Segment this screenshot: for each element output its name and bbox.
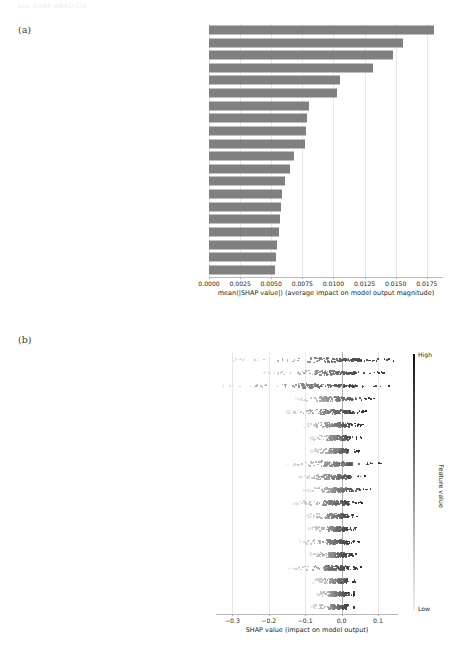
x-axis-line	[209, 277, 443, 278]
colorbar-high-label: High	[418, 351, 432, 358]
x-tick-label: 0.0100	[323, 280, 344, 287]
x-tick-label: 0.0000	[198, 280, 219, 287]
panel-a-bar-chart: Pons white matterLeft parahippocampal gy…	[0, 0, 451, 325]
x-tick-label: 0.0075	[292, 280, 313, 287]
x-tick-label: 0.0050	[261, 280, 282, 287]
colorbar-gradient	[413, 354, 415, 610]
feature-value-colorbar: HighLowFeature value	[0, 330, 451, 665]
x-tick-label: 0.0125	[354, 280, 375, 287]
x-axis-title: mean(|SHAP value|) (average impact on mo…	[218, 289, 434, 297]
x-tick-label: 0.0175	[416, 280, 437, 287]
colorbar-title: Feature value	[437, 464, 445, 508]
panel-a-x-axis: 0.00000.00250.00500.00750.01000.01250.01…	[0, 0, 451, 325]
colorbar-low-label: Low	[418, 605, 430, 612]
x-tick-label: 0.0025	[229, 280, 250, 287]
panel-b-beeswarm-chart: Pons white matterLeft parahippocampal gy…	[0, 330, 451, 665]
x-tick-label: 0.0150	[385, 280, 406, 287]
